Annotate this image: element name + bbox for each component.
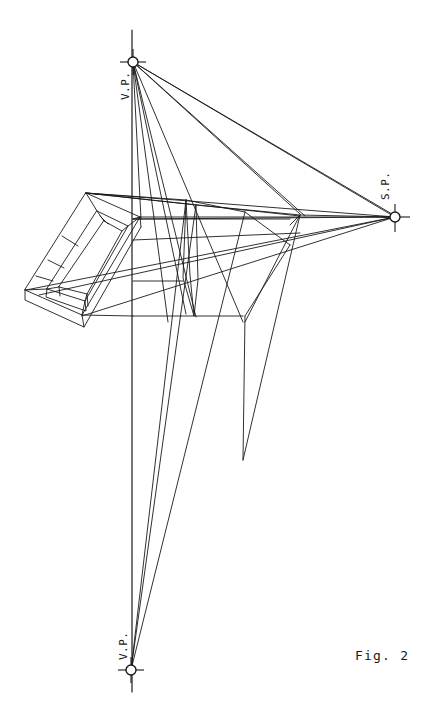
figure-container: V.P. V.P. S.P. Fig. 2	[0, 0, 448, 722]
vanishing-point-bottom-label: V.P.	[117, 632, 130, 661]
vanishing-point-bottom-marker[interactable]	[118, 657, 144, 683]
vanishing-point-top-label: V.P.	[119, 72, 132, 101]
tray-inner-floor	[59, 221, 122, 294]
rectangular-tray-object	[25, 193, 141, 327]
station-point-label: S.P.	[379, 172, 392, 201]
figure-caption: Fig. 2	[355, 648, 409, 663]
tray-outer-top-face	[25, 193, 140, 315]
rays-from-top-vanishing-point	[133, 62, 395, 322]
perspective-construction-drawing	[0, 0, 448, 722]
station-point-marker[interactable]	[382, 204, 410, 232]
rays-to-bottom-vanishing-point	[131, 200, 245, 670]
lower-right-diagonals	[243, 215, 300, 460]
tray-rim-cross-ties	[25, 193, 140, 315]
